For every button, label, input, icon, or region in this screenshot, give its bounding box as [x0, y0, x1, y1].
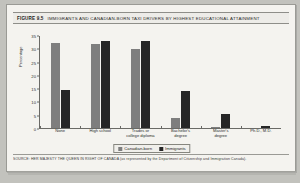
x-tick-mark	[241, 126, 242, 128]
y-tick-label: 35	[31, 34, 36, 39]
legend-label-canadian-born: Canadian-born	[124, 146, 152, 151]
bar-canadian-born	[131, 49, 140, 128]
legend-swatch-canadian-born	[118, 147, 122, 151]
figure-title-bar: FIGURE 9.5 IMMIGRANTS AND CANADIAN-BORN …	[13, 12, 289, 24]
x-axis-label: Bachelor'sdegree	[161, 129, 201, 143]
x-tick-mark	[120, 126, 121, 128]
bar-group	[161, 36, 201, 128]
y-tick-mark	[37, 129, 39, 130]
x-axis-label: None	[40, 129, 80, 143]
chart-legend: Canadian-born Immigrants	[113, 144, 190, 153]
x-axis-label: Master'sdegree	[201, 129, 241, 143]
legend-label-immigrants: Immigrants	[165, 146, 186, 151]
y-tick-label: 15	[31, 87, 36, 92]
y-axis-label: Percentage	[18, 47, 23, 67]
bar-canadian-born	[171, 118, 180, 129]
y-tick-label: 10	[31, 100, 36, 105]
figure-title: IMMIGRANTS AND CANADIAN-BORN TAXI DRIVER…	[48, 16, 260, 21]
bar-immigrants	[61, 90, 70, 128]
chart-plot-area: Percentage 05101520253035 NoneHigh schoo…	[19, 29, 285, 151]
bar-immigrants	[141, 41, 150, 128]
y-tick-label: 0	[34, 127, 36, 132]
y-tick-mark	[37, 75, 39, 76]
bar-immigrants	[221, 114, 230, 128]
bar-immigrants	[101, 41, 110, 128]
legend-item-immigrants: Immigrants	[159, 146, 186, 151]
y-tick-label: 5	[34, 113, 36, 118]
x-tick-mark	[201, 126, 202, 128]
chart-axes: 05101520253035	[39, 36, 281, 129]
bar-canadian-born	[91, 44, 100, 128]
y-tick-mark	[37, 36, 39, 37]
figure-card: FIGURE 9.5 IMMIGRANTS AND CANADIAN-BORN …	[6, 4, 296, 172]
source-divider	[13, 154, 289, 155]
legend-item-canadian-born: Canadian-born	[118, 146, 152, 151]
x-tick-mark	[40, 126, 41, 128]
y-tick-mark	[37, 49, 39, 50]
bar-canadian-born	[51, 43, 60, 128]
x-tick-mark	[80, 126, 81, 128]
y-tick-mark	[37, 89, 39, 90]
bar-group	[241, 36, 281, 128]
y-tick-label: 30	[31, 47, 36, 52]
y-tick-mark	[37, 102, 39, 103]
x-axis-label: High school	[80, 129, 120, 143]
bar-group	[80, 36, 120, 128]
y-tick-label: 20	[31, 73, 36, 78]
figure-number: FIGURE 9.5	[17, 16, 44, 21]
bar-group	[120, 36, 160, 128]
figure-source: SOURCE: HER MAJESTY THE QUEEN IN RIGHT O…	[13, 157, 293, 161]
x-axis-labels: NoneHigh schoolTrades orcollege diplomaB…	[40, 129, 281, 143]
bar-series-group	[40, 36, 281, 128]
legend-swatch-immigrants	[159, 147, 163, 151]
figure-page: FIGURE 9.5 IMMIGRANTS AND CANADIAN-BORN …	[0, 0, 300, 183]
x-tick-mark	[161, 126, 162, 128]
bar-group	[40, 36, 80, 128]
y-tick-mark	[37, 115, 39, 116]
bar-immigrants	[181, 91, 190, 128]
bar-group	[201, 36, 241, 128]
y-tick-label: 25	[31, 60, 36, 65]
y-tick-mark	[37, 62, 39, 63]
card-shadow	[8, 171, 296, 175]
x-axis-label: Trades orcollege diploma	[120, 129, 160, 143]
x-axis-label: Ph.D., M.D.	[241, 129, 281, 143]
